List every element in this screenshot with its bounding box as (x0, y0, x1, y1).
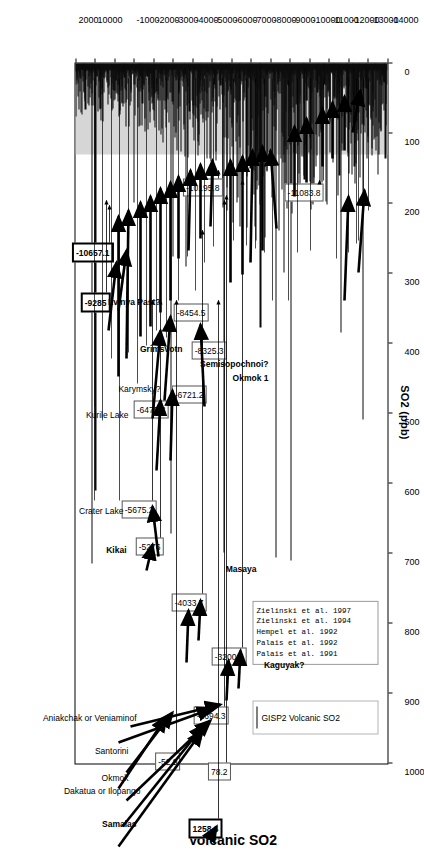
y-tick-mark (192, 58, 193, 62)
x-tick-label: 800 (404, 626, 419, 636)
spike (332, 63, 333, 162)
callout-8454-5: -8454.5 (173, 303, 208, 321)
callout-10657-1: -10657.1 (71, 242, 113, 262)
volcano-label-grimsvotn: Grimsvotn (139, 343, 182, 353)
y-tick-mark (75, 58, 76, 62)
y-tick-label: -1000 (137, 14, 160, 24)
x-tick-mark (388, 342, 392, 343)
y-tick-mark (309, 58, 310, 62)
volcano-label-okmok-1: Okmok 1 (232, 372, 268, 382)
spike (264, 63, 265, 237)
y-tick-mark (348, 58, 349, 62)
volcano-label-samalas: Samalas (102, 818, 137, 828)
callout-1258-6: 1258.6 (188, 818, 222, 838)
reference-5: Palais et al. 1991 (256, 649, 374, 660)
reference-3: Hempel et al. 1992 (256, 627, 374, 638)
y-tick-mark (212, 58, 213, 62)
spike (74, 63, 75, 75)
y-tick-mark (95, 58, 96, 62)
spike (345, 63, 346, 127)
chart-title: Volcanic SO2 (76, 831, 388, 847)
callout-3200-5: -3200.5 (211, 647, 246, 665)
spike (185, 63, 186, 266)
y-tick-mark (251, 58, 252, 62)
y-tick-mark (173, 58, 174, 62)
callout-6475-3: -6475.3 (133, 400, 168, 418)
callout-1694-3: -1694.3 (193, 706, 228, 724)
callout-11083-8: -11083.8 (284, 183, 323, 201)
x-tick-label: 700 (404, 556, 419, 566)
spike (308, 63, 309, 152)
spike (94, 63, 95, 406)
volcano-label-semisopochnoi: Semisopochnoi? (200, 358, 268, 368)
volcano-label-okmok: Okmok (101, 772, 128, 782)
reference-legend: Zielinski et al. 1997 Zielinski et al. 1… (252, 600, 378, 664)
volcano-label-kurile-lake: Kurile Lake (85, 409, 128, 419)
y-tick-mark (368, 58, 369, 62)
y-tick-mark (270, 58, 271, 62)
volcano-label-santorini: Santorini (94, 745, 128, 755)
x-tick-label: 400 (404, 346, 419, 356)
y-tick-label: -10000 (312, 14, 340, 24)
volcano-label-masaya: Masaya (225, 563, 256, 573)
x-tick-label: 100 (404, 136, 419, 146)
volcano-label-crater-lake: Crater Lake (79, 505, 123, 515)
x-tick-mark (388, 412, 392, 413)
callout-9285: -9285 (80, 292, 110, 312)
y-tick-mark (231, 58, 232, 62)
x-tick-mark (388, 692, 392, 693)
spike (340, 63, 341, 332)
reference-4: Palais et al. 1992 (256, 638, 374, 649)
callout-10195-8: -10195.8 (182, 178, 222, 196)
volcano-label-dakatua: Dakatua or Ilopango (63, 786, 140, 812)
volcano-label-kaguyak: Kaguyak? (263, 659, 304, 669)
series-legend: GISP2 Volcanic SO2 (252, 700, 378, 734)
volcano-label-karymsky: Karymsky? (118, 383, 160, 393)
spike (275, 63, 276, 557)
callout-5675-2: -5675.2 (121, 500, 156, 518)
x-tick-label: 200 (404, 206, 419, 216)
volcano-label-lvinya-past: Lvinya Past? (108, 296, 160, 306)
y-tick-label: 2000 (78, 14, 98, 24)
x-tick-label: 0 (404, 66, 409, 76)
x-tick-mark (388, 272, 392, 273)
x-tick-mark (388, 62, 392, 63)
callout-5276: -5276 (135, 537, 163, 555)
spike (170, 63, 171, 533)
x-tick-mark (388, 762, 392, 763)
spike (91, 63, 92, 563)
callout-4033-7: -4033.7 (171, 593, 206, 611)
x-tick-label: 500 (404, 416, 419, 426)
y-tick-mark (134, 58, 135, 62)
callout-8325-3: -8325.3 (191, 341, 226, 359)
y-tick-mark (114, 58, 115, 62)
volcano-label-kikai: Kikai (106, 544, 126, 554)
x-tick-label: 600 (404, 486, 419, 496)
x-tick-mark (388, 132, 392, 133)
x-tick-mark (388, 482, 392, 483)
y-tick-mark (290, 58, 291, 62)
x-tick-mark (388, 622, 392, 623)
x-tick-mark (388, 202, 392, 203)
x-tick-label: 900 (404, 696, 419, 706)
x-tick-label: 1000 (404, 766, 424, 776)
y-tick-mark (153, 58, 154, 62)
legend-series-label: GISP2 Volcanic SO2 (261, 712, 339, 722)
reference-2: Zielinski et al. 1994 (256, 616, 374, 627)
callout-78-2: 78.2 (207, 762, 230, 780)
callout-52-9: -52.9 (155, 752, 180, 770)
x-tick-mark (388, 552, 392, 553)
y-tick-label: 1000 (98, 14, 118, 24)
x-tick-label: 300 (404, 276, 419, 286)
legend-line-swatch (256, 706, 257, 728)
y-tick-mark (387, 58, 388, 62)
x-axis-title: SO2 (ppb) (398, 62, 410, 762)
y-tick-mark (329, 58, 330, 62)
volcano-label-aniakchak: Aniakchak or Veniaminof (42, 713, 136, 739)
y-tick-label: 0 (117, 14, 122, 24)
reference-1: Zielinski et al. 1997 (256, 605, 374, 616)
callout-6721-2: -6721.2 (171, 385, 206, 403)
